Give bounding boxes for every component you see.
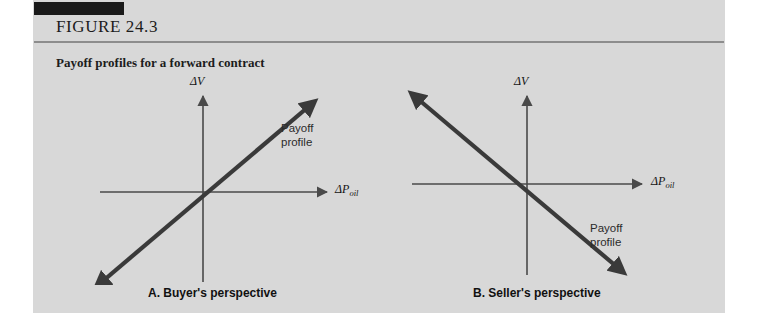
y-axis-label-b: ΔV	[514, 74, 528, 89]
x-axis-label-text-a: ΔP	[335, 182, 349, 196]
x-axis-label-subscript-b: oil	[665, 180, 674, 190]
title-divider	[34, 41, 724, 43]
payoff-profile-annotation-b: Payoff profile	[590, 222, 622, 249]
y-axis-label-text-a: ΔV	[190, 74, 204, 88]
chart-panel-a: ΔV ΔPoil Payoff profile	[45, 70, 385, 285]
payoff-profile-annotation-a-line2: profile	[281, 136, 313, 150]
x-axis-label-b: ΔPoil	[651, 174, 674, 190]
payoff-profile-annotation-b-line1: Payoff	[590, 222, 622, 236]
payoff-profile-annotation-a-line1: Payoff	[281, 122, 313, 136]
payoff-profile-annotation-a: Payoff profile	[281, 122, 313, 149]
figure-root: FIGURE 24.3 Payoff profiles for a forwar…	[0, 0, 758, 332]
x-axis-label-subscript-a: oil	[349, 188, 358, 198]
x-axis-label-a: ΔPoil	[335, 182, 358, 198]
panel-a-caption: A. Buyer's perspective	[148, 286, 277, 300]
chart-a-svg	[45, 70, 385, 285]
y-axis-label-a: ΔV	[190, 74, 204, 89]
chart-panel-b: ΔV ΔPoil Payoff profile	[370, 70, 710, 285]
panel-b-caption: B. Seller's perspective	[473, 286, 601, 300]
x-axis-label-text-b: ΔP	[651, 174, 665, 188]
payoff-profile-annotation-b-line2: profile	[590, 236, 622, 250]
figure-number-label: FIGURE 24.3	[56, 17, 158, 37]
redaction-bar	[34, 2, 124, 15]
y-axis-label-text-b: ΔV	[514, 74, 528, 88]
figure-subtitle: Payoff profiles for a forward contract	[56, 55, 265, 71]
